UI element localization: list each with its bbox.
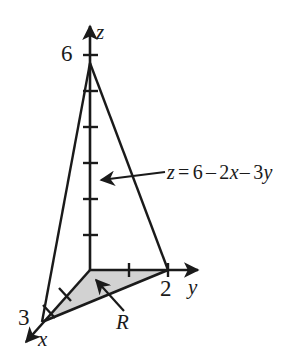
equation-equals: =: [178, 161, 190, 183]
equation-op2: –: [240, 161, 250, 183]
equation-x-coefficient: 2: [219, 161, 229, 183]
plane-equation-label: z=6–2x–3y: [167, 162, 273, 182]
region-label-R: R: [116, 312, 129, 333]
figure-container: z y x 6 2 3 R z=6–2x–3y: [0, 0, 295, 351]
equation-constant: 6: [193, 161, 203, 183]
x-axis-label: x: [38, 329, 47, 350]
equation-x-variable: x: [230, 161, 239, 183]
equation-lhs: z: [167, 161, 175, 183]
z-intercept-label: 6: [61, 42, 73, 65]
z-axis-label: z: [96, 22, 104, 43]
x-intercept-label: 3: [18, 306, 30, 329]
equation-y-variable: y: [263, 161, 272, 183]
equation-op1: –: [206, 161, 216, 183]
edge-apex-to-y-intercept: [90, 63, 168, 270]
equation-y-coefficient: 3: [253, 161, 263, 183]
y-intercept-label: 2: [160, 277, 172, 300]
y-axis-label: y: [188, 277, 197, 298]
